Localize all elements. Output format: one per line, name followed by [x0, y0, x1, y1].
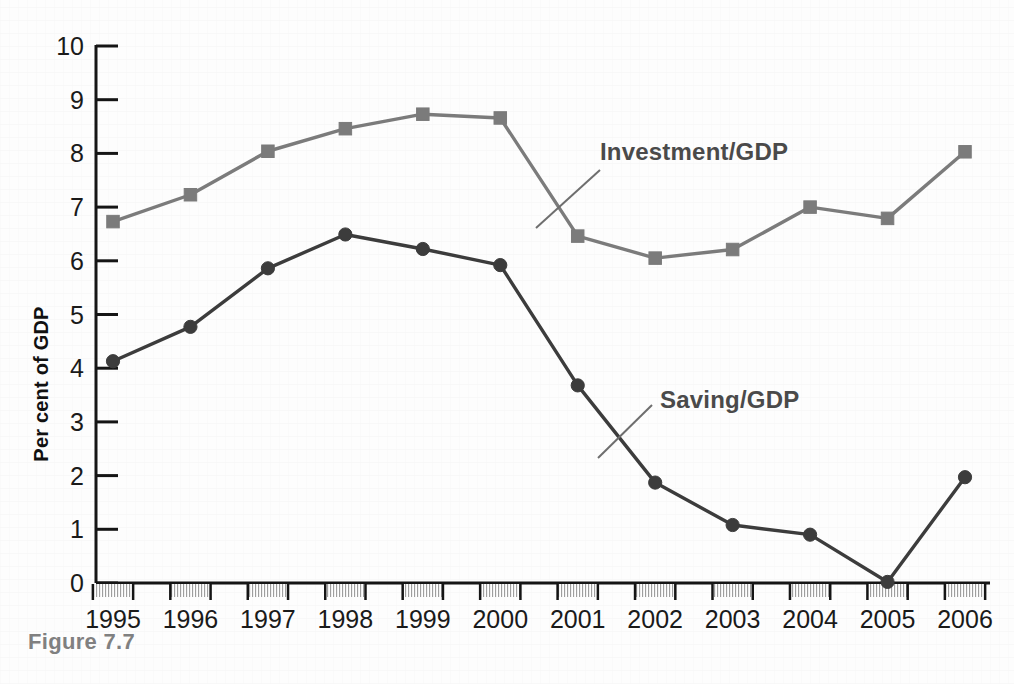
- data-point-marker: [649, 252, 662, 264]
- data-point-marker: [184, 188, 197, 201]
- y-axis: 012345678910 Per cent of GDP: [30, 32, 118, 597]
- data-point-marker: [803, 528, 816, 541]
- data-point-marker: [726, 243, 739, 256]
- data-point-marker: [804, 201, 817, 214]
- series-saving: [106, 228, 971, 589]
- data-point-marker: [339, 228, 352, 241]
- data-point-marker: [494, 112, 507, 125]
- x-axis-ticks: [93, 584, 985, 600]
- y-tick-label: 7: [70, 193, 84, 221]
- data-point-marker: [726, 518, 739, 531]
- line-chart: 012345678910 Per cent of GDP 19951996199…: [0, 0, 1014, 684]
- y-tick-label: 8: [70, 139, 84, 167]
- y-tick-label: 9: [70, 86, 84, 114]
- y-axis-tick-labels: 012345678910: [56, 32, 84, 597]
- data-point-marker: [107, 215, 120, 228]
- plot-area: [95, 40, 990, 583]
- data-point-marker: [261, 262, 274, 275]
- x-axis-hatch-bands: [93, 584, 985, 597]
- figure-caption: Figure 7.7: [28, 629, 135, 654]
- data-point-marker: [571, 379, 584, 392]
- data-point-marker: [958, 471, 971, 484]
- series-line: [113, 234, 965, 581]
- series-label-investment: Investment/GDP: [600, 138, 788, 165]
- data-point-marker: [417, 108, 430, 121]
- data-point-marker: [416, 242, 429, 255]
- figure-container: 012345678910 Per cent of GDP 19951996199…: [0, 0, 1014, 684]
- data-point-marker: [881, 212, 894, 225]
- data-point-marker: [339, 122, 352, 135]
- data-point-marker: [184, 320, 197, 333]
- data-point-marker: [881, 575, 894, 588]
- data-point-marker: [649, 476, 662, 489]
- data-point-marker: [571, 230, 584, 243]
- annotation-leader-line: [598, 405, 652, 458]
- series-annotations: Investment/GDPSaving/GDP: [536, 138, 799, 458]
- series-investment: [107, 108, 972, 264]
- data-point-marker: [262, 145, 275, 158]
- y-tick-label: 10: [56, 32, 84, 60]
- y-axis-title: Per cent of GDP: [30, 306, 52, 461]
- series-label-saving: Saving/GDP: [660, 386, 799, 413]
- y-tick-label: 3: [70, 408, 84, 436]
- y-tick-label: 2: [70, 462, 84, 490]
- y-tick-label: 6: [70, 247, 84, 275]
- y-tick-label: 5: [70, 301, 84, 329]
- data-point-marker: [106, 355, 119, 368]
- series-line: [113, 114, 965, 258]
- data-series-layer: [106, 108, 971, 589]
- figure-caption-wrap: Figure 7.7: [0, 612, 1014, 684]
- y-tick-label: 1: [70, 515, 84, 543]
- y-axis-ticks: [96, 46, 118, 583]
- y-tick-label: 0: [70, 569, 84, 597]
- y-tick-label: 4: [70, 354, 84, 382]
- data-point-marker: [494, 258, 507, 271]
- data-point-marker: [959, 146, 972, 159]
